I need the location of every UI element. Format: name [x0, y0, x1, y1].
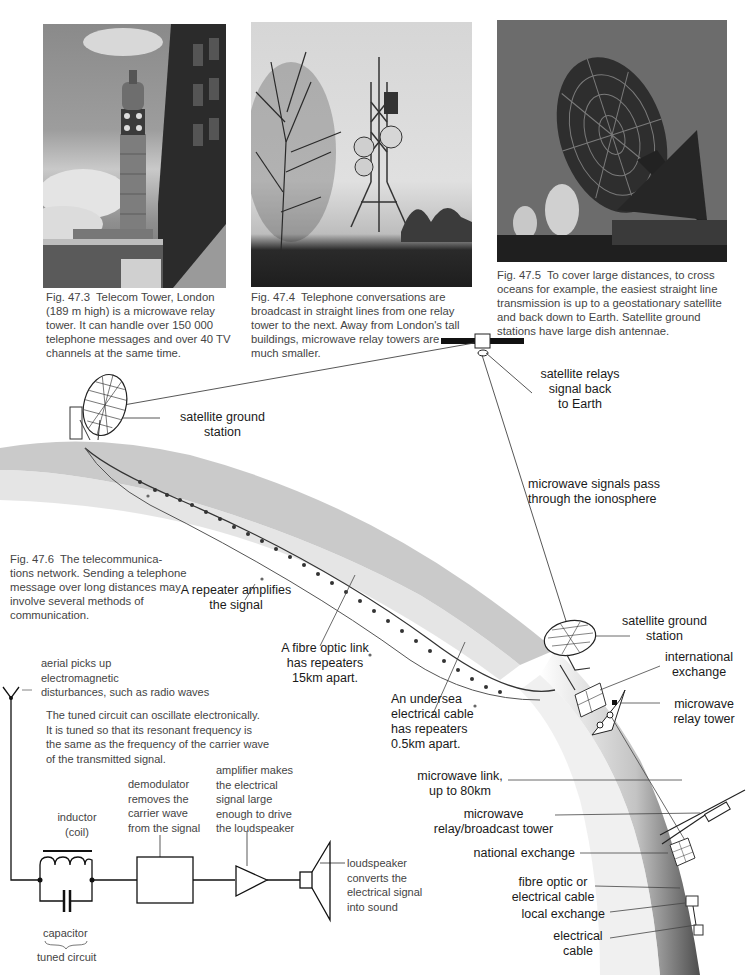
- label-line: local exchange: [510, 907, 605, 922]
- label-line: the signal: [176, 598, 296, 613]
- label-line: has repeaters: [270, 656, 380, 671]
- label-ionosphere: microwave signals pass through the ionos…: [528, 477, 660, 507]
- label-international-exchange: international exchange: [654, 650, 744, 680]
- label-line: carrier wave: [128, 806, 200, 821]
- label-line: microwave signals pass: [528, 477, 660, 492]
- label-line: station: [160, 425, 285, 440]
- label-electrical-cable: electrical cable: [548, 929, 608, 959]
- label-inductor: inductor (coil): [52, 810, 102, 839]
- label-line: to Earth: [525, 397, 635, 412]
- label-broadcast-tower: microwave relay/broadcast tower: [431, 807, 556, 837]
- label-line: An undersea: [391, 692, 474, 707]
- label-line: enough to drive: [216, 807, 294, 822]
- label-line: microwave link,: [410, 769, 510, 784]
- label-line: the electrical: [216, 778, 294, 793]
- satellite-icon: [441, 334, 524, 356]
- label-line: electrical cable: [508, 890, 598, 905]
- label-line: national exchange: [470, 846, 575, 861]
- label-line: electrical: [548, 929, 608, 944]
- label-line: electrical signal: [347, 885, 422, 900]
- label-repeater: A repeater amplifies the signal: [176, 583, 296, 613]
- label-fibre-optic-link: A fibre optic link has repeaters 15km ap…: [270, 641, 380, 686]
- label-microwave-relay-tower: microwave relay tower: [664, 697, 744, 727]
- label-demodulator: demodulator removes the carrier wave fro…: [128, 777, 200, 835]
- label-ground-station-right: satellite ground station: [607, 614, 722, 644]
- label-fibre-or-electrical: fibre optic or electrical cable: [508, 875, 598, 905]
- label-line: aerial picks up: [41, 656, 209, 671]
- label-line: exchange: [654, 665, 744, 680]
- label-microwave-link: microwave link, up to 80km: [410, 769, 510, 799]
- label-line: 15km apart.: [270, 671, 380, 686]
- ground-station-left-icon: [70, 370, 133, 441]
- label-line: electromagnetic: [41, 671, 209, 686]
- caption-fig-number: Fig. 47.6: [10, 553, 54, 565]
- label-line: converts the: [347, 871, 422, 886]
- label-line: inductor: [52, 810, 102, 825]
- label-local-exchange: local exchange: [510, 907, 605, 922]
- label-line: demodulator: [128, 777, 200, 792]
- label-satellite-relays: satellite relays signal back to Earth: [525, 367, 635, 412]
- label-line: disturbances, such as radio waves: [41, 685, 209, 700]
- label-line: The tuned circuit can oscillate electron…: [46, 708, 269, 723]
- label-line: through the ionosphere: [528, 492, 660, 507]
- label-line: electrical cable: [391, 707, 474, 722]
- label-tuned-circuit: tuned circuit: [37, 950, 96, 965]
- label-tuned-circuit-note: The tuned circuit can oscillate electron…: [46, 708, 269, 766]
- caption-line: tions network. Sending a telephone: [10, 566, 205, 580]
- label-line: removes the: [128, 792, 200, 807]
- label-amplifier: amplifier makes the electrical signal la…: [216, 763, 294, 836]
- label-line: satellite relays: [525, 367, 635, 382]
- label-ground-station-left: satellite ground station: [160, 410, 285, 440]
- label-line: the loudspeaker: [216, 821, 294, 836]
- caption-line: The telecommunica-: [60, 553, 162, 565]
- label-line: up to 80km: [410, 784, 510, 799]
- label-line: It is tuned so that its resonant frequen…: [46, 723, 269, 738]
- label-line: microwave: [664, 697, 744, 712]
- label-undersea-cable: An undersea electrical cable has repeate…: [391, 692, 474, 752]
- label-line: satellite ground: [160, 410, 285, 425]
- label-line: from the signal: [128, 821, 200, 836]
- label-line: signal back: [525, 382, 635, 397]
- label-line: has repeaters: [391, 722, 474, 737]
- label-national-exchange: national exchange: [470, 846, 575, 861]
- label-line: signal large: [216, 792, 294, 807]
- label-line: international: [654, 650, 744, 665]
- label-line: relay/broadcast tower: [431, 822, 556, 837]
- label-line: the same as the frequency of the carrier…: [46, 737, 269, 752]
- label-line: A repeater amplifies: [176, 583, 296, 598]
- uplink-line: [118, 343, 474, 406]
- label-line: satellite ground: [607, 614, 722, 629]
- label-line: amplifier makes: [216, 763, 294, 778]
- label-line: microwave: [431, 807, 556, 822]
- label-line: 0.5km apart.: [391, 737, 474, 752]
- label-line: cable: [548, 944, 608, 959]
- label-line: (coil): [52, 825, 102, 840]
- label-line: A fibre optic link: [270, 641, 380, 656]
- label-line: relay tower: [664, 712, 744, 727]
- label-loudspeaker: loudspeaker converts the electrical sign…: [347, 856, 422, 914]
- label-line: loudspeaker: [347, 856, 422, 871]
- label-line: station: [607, 629, 722, 644]
- label-capacitor: capacitor: [43, 926, 88, 941]
- label-line: fibre optic or: [508, 875, 598, 890]
- label-line: into sound: [347, 900, 422, 915]
- label-aerial: aerial picks up electromagnetic disturba…: [41, 656, 209, 700]
